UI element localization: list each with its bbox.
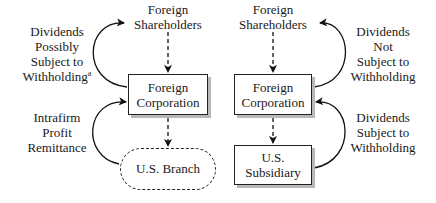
left-shareholders-line2: Shareholders (128, 17, 208, 32)
right-foreign-corporation-box: Foreign Corporation (234, 74, 312, 115)
left-corp-line1: Foreign (137, 80, 200, 95)
right-lower-label-line2: Subject to (336, 125, 430, 140)
footnote-marker: a (88, 69, 92, 78)
right-lower-label: Dividends Subject to Withholding (336, 110, 430, 155)
right-corp-line1: Foreign (242, 80, 305, 95)
right-shareholders-line1: Foreign (233, 2, 313, 17)
left-upper-label-line1: Dividends (8, 24, 106, 39)
left-upper-label-line4-text: Withholding (23, 69, 88, 84)
left-upper-label-line4: Withholdinga (8, 69, 106, 84)
right-upper-label: Dividends Not Subject to Withholding (336, 24, 430, 84)
left-lower-label-line2: Profit (12, 125, 102, 140)
right-upper-label-line4: Withholding (336, 69, 430, 84)
left-corp-line2: Corporation (137, 95, 200, 110)
us-branch-label: U.S. Branch (136, 161, 200, 177)
right-upper-label-line2: Not (336, 39, 430, 54)
right-upper-label-line3: Subject to (336, 54, 430, 69)
us-branch-node: U.S. Branch (120, 148, 216, 190)
us-subsidiary-box: U.S. Subsidiary (234, 145, 312, 185)
us-subsidiary-line2: Subsidiary (245, 165, 301, 180)
right-corp-line2: Corporation (242, 95, 305, 110)
left-foreign-corporation-box: Foreign Corporation (128, 74, 208, 115)
right-shareholders-line2: Shareholders (233, 17, 313, 32)
left-upper-label-line2: Possibly (8, 39, 106, 54)
right-foreign-shareholders: Foreign Shareholders (233, 2, 313, 32)
left-shareholders-line1: Foreign (128, 2, 208, 17)
us-subsidiary-line1: U.S. (245, 150, 301, 165)
left-foreign-shareholders: Foreign Shareholders (128, 2, 208, 32)
left-lower-label: Intrafirm Profit Remittance (12, 110, 102, 155)
left-lower-label-line1: Intrafirm (12, 110, 102, 125)
right-lower-label-line3: Withholding (336, 140, 430, 155)
left-lower-label-line3: Remittance (12, 140, 102, 155)
right-lower-label-line1: Dividends (336, 110, 430, 125)
left-upper-label: Dividends Possibly Subject to Withholdin… (8, 24, 106, 84)
left-upper-label-line3: Subject to (8, 54, 106, 69)
right-upper-label-line1: Dividends (336, 24, 430, 39)
